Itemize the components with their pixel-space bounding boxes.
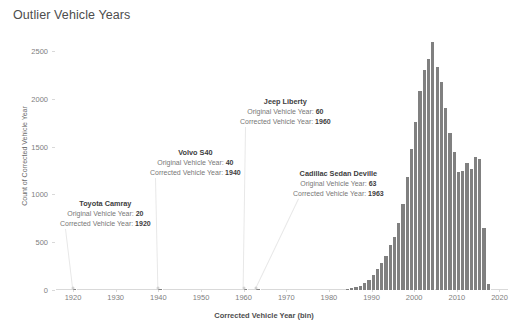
histogram-bar <box>482 228 486 290</box>
chart-root: Outlier Vehicle Years Count of Corrected… <box>0 0 528 331</box>
leader-endpoint-dot <box>72 287 75 290</box>
y-tick-mark <box>52 51 55 52</box>
leader-endpoint-dot <box>157 287 160 290</box>
annotation-cadillac-sedan-deville: Cadillac Sedan DevilleOriginal Vehicle Y… <box>293 169 384 198</box>
annotation-original-year: Original Vehicle Year: 20 <box>60 209 151 219</box>
y-tick-label: 2500 <box>31 47 48 56</box>
x-tick-label: 1980 <box>321 293 338 302</box>
x-tick-label: 2020 <box>491 293 508 302</box>
annotation-corrected-year: Corrected Vehicle Year: 1940 <box>150 168 241 178</box>
y-tick-label: 1500 <box>31 142 48 151</box>
annotation-original-year: Original Vehicle Year: 60 <box>240 107 331 117</box>
x-tick-label: 2010 <box>448 293 465 302</box>
annotation-original-year: Original Vehicle Year: 40 <box>150 158 241 168</box>
y-tick-mark <box>52 242 55 243</box>
x-tick-label: 1950 <box>193 293 210 302</box>
x-tick-label: 1920 <box>65 293 82 302</box>
y-tick-label: 0 <box>44 286 48 295</box>
annotation-corrected-year: Corrected Vehicle Year: 1960 <box>240 117 331 127</box>
annotation-title: Toyota Camray <box>60 199 151 209</box>
annotation-jeep-liberty: Jeep LibertyOriginal Vehicle Year: 60Cor… <box>240 97 331 126</box>
x-tick-label: 1960 <box>235 293 252 302</box>
x-tick-label: 1930 <box>107 293 124 302</box>
y-axis-label-holder: Count of Corrected Vehicle Year <box>8 96 18 216</box>
y-tick-label: 1000 <box>31 190 48 199</box>
annotation-corrected-year: Corrected Vehicle Year: 1920 <box>60 219 151 229</box>
plot-area <box>56 32 508 290</box>
x-tick-label: 1990 <box>363 293 380 302</box>
x-tick-label: 1970 <box>278 293 295 302</box>
y-tick-mark <box>52 147 55 148</box>
leader-endpoint-dot <box>242 287 245 290</box>
annotation-toyota-camray: Toyota CamrayOriginal Vehicle Year: 20Co… <box>60 199 151 228</box>
y-tick-mark <box>52 194 55 195</box>
x-tick-label: 1940 <box>150 293 167 302</box>
x-tick-label: 2000 <box>406 293 423 302</box>
y-tick-label: 2000 <box>31 94 48 103</box>
leader-endpoint-dot <box>255 287 258 290</box>
x-axis-label: Corrected Vehicle Year (bin) <box>0 311 528 320</box>
y-tick-mark <box>52 99 55 100</box>
annotation-title: Cadillac Sedan Deville <box>293 169 384 179</box>
y-tick-mark <box>52 290 55 291</box>
annotation-original-year: Original Vehicle Year: 63 <box>293 179 384 189</box>
histogram-bar <box>487 284 491 290</box>
annotation-title: Jeep Liberty <box>240 97 331 107</box>
annotation-volvo-s40: Volvo S40Original Vehicle Year: 40Correc… <box>150 148 241 177</box>
y-tick-label: 500 <box>35 238 48 247</box>
annotation-title: Volvo S40 <box>150 148 241 158</box>
annotation-corrected-year: Corrected Vehicle Year: 1963 <box>293 189 384 199</box>
y-axis-label: Count of Corrected Vehicle Year <box>21 96 28 216</box>
page-title: Outlier Vehicle Years <box>13 8 130 22</box>
